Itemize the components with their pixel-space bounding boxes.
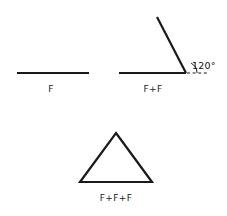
panel-two-segments-angle: 120° F+F — [119, 17, 216, 94]
label-f-plus-f-plus-f: F+F+F — [100, 193, 133, 203]
segment-f-plus-f-diagonal — [157, 17, 186, 73]
geometry-figure-canvas: F 120° F+F F+F+F — [0, 0, 227, 216]
panel-triangle: F+F+F — [80, 133, 152, 203]
label-f: F — [48, 84, 54, 94]
triangle-shape — [80, 133, 152, 182]
angle-measure-label: 120° — [192, 60, 216, 71]
label-f-plus-f: F+F — [143, 84, 162, 94]
panel-single-segment: F — [17, 73, 89, 94]
